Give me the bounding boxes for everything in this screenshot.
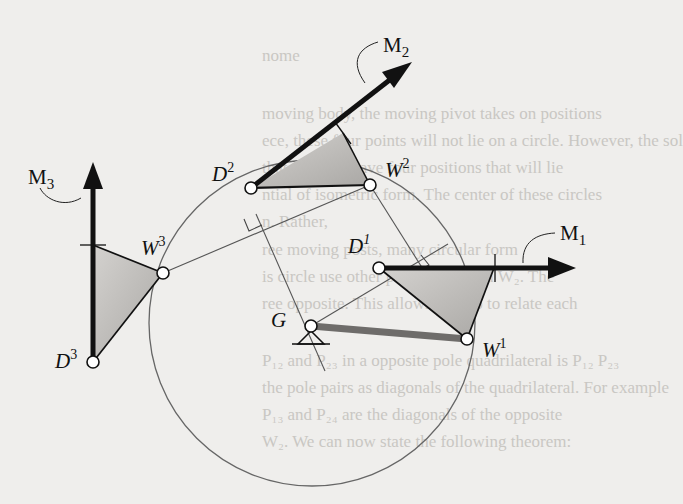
label-w3: W3 [141,234,166,260]
label-d3: D3 [54,347,77,373]
coupler-triangle-3 [93,245,163,362]
node-d1 [373,262,385,274]
label-m3: M3 [28,165,54,192]
ground-pivot-icon [292,331,330,344]
node-w3 [157,267,169,279]
label-d1: D1 [347,232,370,258]
label-m2: M2 [383,33,409,60]
node-d2 [245,182,257,194]
m2-callout-curve [357,42,378,83]
node-d3 [87,356,99,368]
label-m1: M1 [560,221,586,248]
node-g [305,320,317,332]
node-w1 [461,333,473,345]
label-w2: W2 [385,156,410,182]
coupler-triangle-1 [379,268,494,339]
ground-link [311,326,467,339]
label-w1: W1 [482,336,507,362]
node-w2 [364,179,376,191]
label-g: G [271,308,286,332]
